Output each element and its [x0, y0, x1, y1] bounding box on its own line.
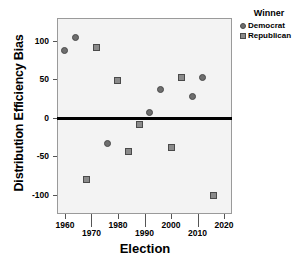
- data-point-republican: [168, 144, 175, 151]
- y-tick-label: -100: [15, 190, 49, 200]
- x-tick-mark: [65, 214, 66, 219]
- data-point-republican: [178, 74, 185, 81]
- scatter-chart-figure: Distribution Efficiency Bias 100500-50-1…: [0, 0, 306, 264]
- x-tick-mark: [171, 214, 172, 219]
- x-tick-label: 1980: [103, 220, 133, 230]
- legend-title: Winner: [240, 8, 298, 18]
- x-tick-label: 1960: [50, 220, 80, 230]
- legend: Winner Democrat Republican: [240, 8, 304, 40]
- data-point-republican: [125, 148, 132, 155]
- x-axis-title: Election: [57, 241, 233, 256]
- x-tick-mark: [145, 214, 146, 227]
- x-tick-mark: [198, 214, 199, 227]
- x-tick-label: 2010: [183, 228, 213, 238]
- data-point-republican: [136, 121, 143, 128]
- x-tick-label: 1970: [76, 228, 106, 238]
- x-tick-mark: [118, 214, 119, 219]
- x-tick-mark: [91, 214, 92, 227]
- data-point-republican: [83, 176, 90, 183]
- data-point-democrat: [189, 93, 196, 100]
- data-point-republican: [114, 77, 121, 84]
- legend-label-republican: Republican: [248, 31, 291, 40]
- data-point-democrat: [199, 74, 206, 81]
- y-tick-mark: [53, 79, 57, 80]
- data-point-republican: [210, 192, 217, 199]
- y-tick-label: -50: [15, 151, 49, 161]
- x-tick-label: 2020: [209, 220, 239, 230]
- x-tick-label: 2000: [156, 220, 186, 230]
- democrat-marker-icon: [240, 23, 246, 29]
- data-point-democrat: [157, 86, 164, 93]
- x-tick-mark: [224, 214, 225, 219]
- x-tick-label: 1990: [130, 228, 160, 238]
- republican-marker-icon: [240, 33, 246, 39]
- y-tick-mark: [53, 41, 57, 42]
- y-tick-label: 100: [15, 36, 49, 46]
- legend-label-democrat: Democrat: [248, 21, 285, 30]
- y-tick-mark: [53, 195, 57, 196]
- zero-reference-line: [57, 117, 232, 120]
- legend-item-republican: Republican: [240, 31, 304, 40]
- data-point-republican: [93, 44, 100, 51]
- y-tick-label: 50: [15, 74, 49, 84]
- legend-item-democrat: Democrat: [240, 21, 304, 30]
- y-tick-label: 0: [15, 113, 49, 123]
- data-point-democrat: [104, 140, 111, 147]
- y-tick-mark: [53, 156, 57, 157]
